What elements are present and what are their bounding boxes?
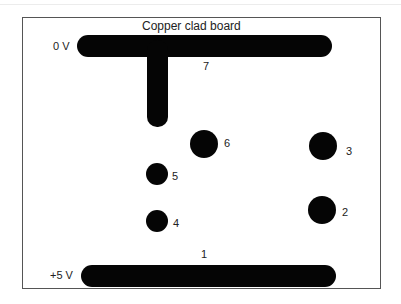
pad-6 [190,130,218,158]
pad-2-label: 2 [342,207,348,218]
pad-5-label: 5 [172,171,178,182]
pad-3-label: 3 [346,146,352,157]
board-title: Copper clad board [142,20,241,32]
ground-rail-number: 7 [203,61,209,72]
supply-rail-label: +5 V [50,270,73,281]
ground-rail-stem-trace [147,40,168,127]
supply-rail-trace [81,265,336,287]
pad-6-label: 6 [224,138,230,149]
pad-2 [308,196,336,224]
supply-rail-number: 1 [201,249,207,260]
page-edge-line [0,4,401,5]
ground-rail-trace [77,35,332,57]
pad-4 [146,210,168,232]
pad-5 [146,163,168,185]
pad-3 [309,132,337,160]
ground-rail-label: 0 V [53,41,70,52]
pad-4-label: 4 [173,218,179,229]
